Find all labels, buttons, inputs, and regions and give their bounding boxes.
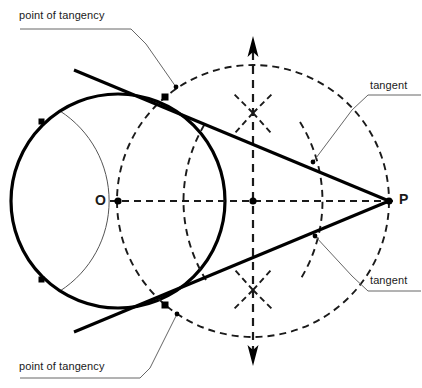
- label-point-of-tangency-top: point of tangency: [19, 9, 104, 21]
- compass-mark-left-top: [39, 119, 45, 125]
- label-tangent-bottom: tangent: [370, 274, 407, 286]
- tick-bottom-left: [232, 290, 253, 311]
- leader-tangent-top: [313, 95, 421, 162]
- tick-bottom-upper-right: [253, 269, 272, 290]
- tangent-line-top: [74, 70, 389, 201]
- tangency-point-top: [162, 94, 169, 101]
- label-point-p: P: [399, 191, 408, 207]
- leader-dot-bottom: [175, 312, 180, 317]
- leader-dot-tangent-top: [311, 160, 316, 165]
- tick-bottom-right: [253, 290, 274, 311]
- label-tangent-top: tangent: [370, 79, 407, 91]
- external-point-p: [385, 197, 392, 204]
- tick-top-right: [253, 92, 274, 113]
- leader-dot-top: [174, 85, 179, 90]
- leader-lines: [20, 29, 421, 378]
- label-center-o: O: [95, 192, 106, 208]
- geometry-canvas: [0, 0, 422, 388]
- label-point-of-tangency-bottom: point of tangency: [19, 360, 104, 372]
- leader-dot-tangent-bottom: [313, 234, 318, 239]
- geometry-diagram: point of tangency point of tangency tang…: [0, 0, 422, 388]
- tangency-point-bottom: [162, 302, 169, 309]
- center-point-o: [114, 197, 121, 204]
- midpoint-op: [249, 197, 256, 204]
- tick-top-lower-left: [234, 113, 253, 134]
- tick-top-left: [232, 92, 253, 113]
- compass-mark-left-bottom: [39, 277, 45, 283]
- tangent-line-bottom: [74, 201, 389, 332]
- tick-bottom-upper-left: [234, 269, 253, 290]
- leader-point-of-tangency-top: [20, 29, 176, 87]
- tick-top-lower-right: [253, 113, 272, 134]
